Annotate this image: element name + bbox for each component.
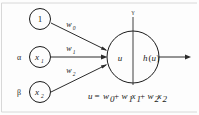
input-node-x2-subscript: 2: [41, 93, 44, 99]
neuron-activation-label: h: [143, 53, 148, 63]
equation-term1-w: w: [122, 91, 128, 101]
weight-label-w0: w: [66, 20, 72, 29]
edge-x2-to-neuron: [51, 65, 106, 92]
edge-bias-to-neuron: [51, 23, 106, 50]
equation-equals-sign: =: [95, 91, 100, 101]
input-node-x1-greek-label: α: [17, 53, 22, 62]
equation-plus-1: +: [114, 91, 119, 101]
equation-term0-w: w: [103, 91, 109, 101]
input-node-x1-label: x: [34, 52, 39, 62]
weight-label-w1: w: [66, 44, 72, 53]
weight-label-w0-subscript: 0: [73, 25, 76, 31]
input-node-x2-greek-label: β: [17, 88, 21, 97]
equation-term1-x: x: [131, 91, 136, 101]
equation-lhs: u: [88, 91, 93, 101]
neuron-diagram: 1 x 1 α x 2 β w 0 w 1 w 2 γ u h ( u ) u …: [0, 0, 199, 115]
equation-term2-x-subscript: 2: [163, 94, 168, 104]
input-node-x1[interactable]: [30, 47, 51, 68]
neuron-diagram-canvas: 1 x 1 α x 2 β w 0 w 1 w 2 γ u h ( u ) u …: [0, 0, 199, 115]
arrowhead-output-icon: [185, 55, 191, 60]
input-node-bias-label: 1: [38, 14, 43, 24]
equation-plus-2: +: [140, 91, 145, 101]
weight-label-w1-subscript: 1: [73, 49, 76, 55]
equation-term2-x: x: [157, 91, 162, 101]
weight-label-w2-subscript: 2: [73, 71, 76, 77]
arrowhead-bias-icon: [101, 46, 108, 50]
input-node-x1-subscript: 1: [41, 58, 44, 64]
arrowhead-x2-icon: [101, 64, 108, 68]
weight-label-w2: w: [66, 66, 72, 75]
neuron-sum-label: u: [118, 53, 123, 63]
neuron-gamma-label: γ: [130, 8, 134, 16]
input-node-x2-label: x: [34, 87, 39, 97]
input-node-x2[interactable]: [30, 82, 51, 103]
equation-term2-w: w: [148, 91, 154, 101]
